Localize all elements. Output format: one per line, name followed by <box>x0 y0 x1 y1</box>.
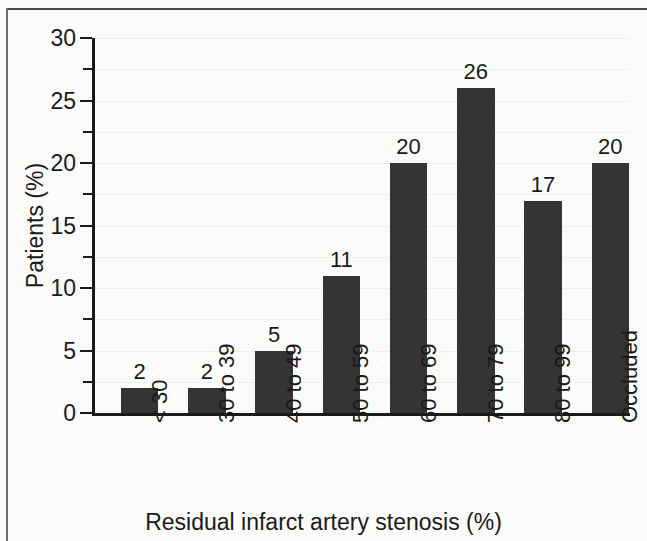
y-axis-line <box>92 38 95 413</box>
y-axis-tick-minor <box>83 256 92 258</box>
gridline <box>95 132 630 133</box>
y-axis-tick-major <box>80 162 92 164</box>
y-axis-tick-label: 0 <box>63 402 76 425</box>
y-axis-tick-label: 20 <box>50 152 76 175</box>
figure-frame-left-rule <box>6 8 8 541</box>
y-axis-tick-label: 15 <box>50 214 76 237</box>
figure-container: Patients (%) 051015202530 2251120261720 … <box>0 0 647 541</box>
x-axis-title: Residual infarct artery stenosis (%) <box>0 511 647 534</box>
bar-value-label: 20 <box>598 136 622 158</box>
gridline <box>95 101 630 102</box>
bar-value-label: 2 <box>133 361 145 383</box>
bar-value-label: 20 <box>396 136 420 158</box>
y-axis-tick-minor <box>83 381 92 383</box>
gridline <box>95 163 630 164</box>
x-axis-tick-label: 70 to 79 <box>485 343 507 423</box>
plot-area: 051015202530 2251120261720 < 3030 to 394… <box>92 38 630 413</box>
y-axis-tick-major <box>80 225 92 227</box>
bar-value-label: 5 <box>268 324 280 346</box>
y-axis-tick-major <box>80 412 92 414</box>
x-axis-tick-label: Occluded <box>619 330 641 423</box>
gridline <box>95 38 630 39</box>
bar-value-label: 17 <box>531 174 555 196</box>
y-axis-tick-label: 30 <box>50 27 76 50</box>
y-axis-tick-minor <box>83 193 92 195</box>
gridline <box>95 69 630 70</box>
y-axis-tick-major <box>80 100 92 102</box>
y-axis-tick-minor <box>83 318 92 320</box>
y-axis-tick-major <box>80 287 92 289</box>
y-axis-title: Patients (%) <box>20 38 50 413</box>
x-axis-tick-label: 60 to 69 <box>418 343 440 423</box>
bar-value-label: 11 <box>330 249 353 271</box>
bar-value-label: 26 <box>464 61 488 83</box>
y-axis-tick-minor <box>83 131 92 133</box>
y-axis-tick-major <box>80 350 92 352</box>
x-axis-tick-label: 30 to 39 <box>216 343 238 423</box>
y-axis-tick-major <box>80 37 92 39</box>
x-axis-tick-label: < 30 <box>149 380 171 423</box>
figure-frame-top-rule <box>6 8 647 10</box>
y-axis-tick-label: 10 <box>50 277 76 300</box>
y-axis-tick-label: 25 <box>50 89 76 112</box>
y-axis-tick-label: 5 <box>63 339 76 362</box>
x-axis-tick-label: 80 to 99 <box>552 343 574 423</box>
y-axis-tick-minor <box>83 68 92 70</box>
bar-value-label: 2 <box>201 361 213 383</box>
x-axis-tick-label: 40 to 49 <box>283 343 305 423</box>
x-axis-tick-label: 50 to 59 <box>350 343 372 423</box>
